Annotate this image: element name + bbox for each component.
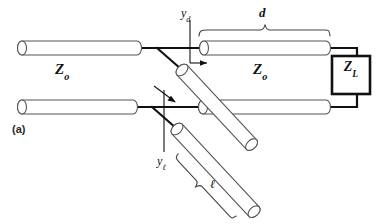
left-lower-tube — [18, 100, 138, 114]
figure-panel-a: Zo Zo ZL yd yℓ d ℓ (a) — [0, 0, 387, 224]
transmission-line-diagram — [0, 0, 387, 224]
conductor-lines — [136, 48, 357, 128]
top-stub-branch-conductor — [157, 48, 181, 69]
label-z-load: ZL — [344, 60, 358, 77]
bottom-right-to-load-conductor — [330, 94, 357, 107]
yd-arrow-head — [200, 60, 207, 66]
brace-d — [199, 25, 330, 36]
panel-label: (a) — [12, 124, 25, 135]
left-upper-tube — [18, 41, 142, 55]
label-z-main-right: Zo — [253, 62, 267, 80]
label-length-d: d — [259, 6, 266, 19]
label-length-l: ℓ — [210, 178, 215, 190]
label-yl: yℓ — [157, 155, 166, 171]
label-z-main-left: Zo — [55, 62, 69, 80]
right-upper-tube — [200, 41, 331, 55]
label-yd: yd — [181, 7, 190, 23]
